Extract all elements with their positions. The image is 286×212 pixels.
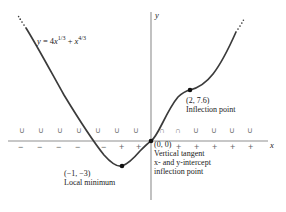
local-minimum-caption: Local minimum (64, 179, 115, 188)
equation-equals: = (43, 36, 48, 46)
sign-mark: + (248, 142, 253, 152)
concavity-mark: ∩ (159, 126, 165, 135)
curve-extension-left (18, 16, 25, 26)
origin-caption-inflection: inflection point (154, 168, 211, 177)
equation-term2-exponent: 4/3 (78, 35, 86, 41)
sign-mark: − (18, 142, 23, 152)
concavity-mark: ∪ (76, 126, 82, 135)
plot-canvas (0, 0, 286, 212)
concavity-mark: ∪ (211, 126, 217, 135)
point-inflection (188, 88, 193, 93)
annotation-inflection-point: (2, 7.6) Inflection point (186, 97, 236, 115)
concavity-mark: ∪ (193, 126, 199, 135)
concavity-mark: ∪ (95, 126, 101, 135)
point-local-minimum (120, 164, 125, 169)
point-origin (149, 139, 154, 144)
equation-term1-exponent: 1/3 (58, 35, 66, 41)
y-axis-label: y (155, 11, 159, 21)
equation-lhs: y (37, 36, 41, 46)
concavity-mark: ∪ (114, 126, 120, 135)
concavity-mark: ∪ (247, 126, 253, 135)
sign-mark: + (230, 142, 235, 152)
annotation-origin: (0, 0) Vertical tangent x- and y-interce… (154, 141, 211, 177)
equation-label: y = 4x1/3 + x4/3 (37, 35, 86, 46)
sign-mark: − (56, 142, 61, 152)
concavity-mark: ∪ (229, 126, 235, 135)
sign-mark: + (136, 142, 141, 152)
sign-mark: + (212, 142, 217, 152)
concavity-mark: ∪ (57, 126, 63, 135)
sign-mark: + (119, 142, 124, 152)
equation-plus: + (68, 36, 73, 46)
x-axis-label: x (270, 141, 274, 151)
curve-extension-right (237, 19, 244, 29)
concavity-mark: ∪ (38, 126, 44, 135)
concavity-mark: ∪ (133, 126, 139, 135)
sign-mark: − (37, 142, 42, 152)
concavity-mark: ∩ (175, 126, 181, 135)
annotation-local-minimum: (−1, −3) Local minimum (64, 170, 115, 188)
graph-figure: y = 4x1/3 + x4/3 y x ∪ ∪ ∪ ∪ ∪ ∪ ∪ ∩ ∩ ∪… (0, 0, 286, 212)
sign-mark: − (75, 142, 80, 152)
inflection-caption: Inflection point (186, 106, 236, 115)
sign-mark: − (101, 142, 106, 152)
concavity-mark: ∪ (19, 126, 25, 135)
